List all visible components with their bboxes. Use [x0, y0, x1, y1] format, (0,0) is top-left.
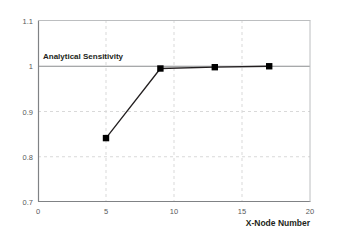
y-tick-label: 0.8 — [23, 153, 33, 162]
y-tick-label: 0.7 — [23, 198, 33, 207]
analytical-sensitivity-line-chart: 1.1 1 0.9 0.8 0.7 0 5 10 15 20 Analytica… — [0, 0, 341, 241]
chart-background — [0, 0, 341, 241]
chart-container: 1.1 1 0.9 0.8 0.7 0 5 10 15 20 Analytica… — [0, 0, 341, 241]
x-tick-label: 0 — [36, 207, 40, 216]
data-point-marker — [103, 135, 109, 141]
x-tick-label: 10 — [170, 207, 178, 216]
x-tick-label: 5 — [104, 207, 108, 216]
x-tick-label: 20 — [306, 207, 314, 216]
x-axis-title: X-Node Number — [246, 218, 311, 228]
y-tick-label: 0.9 — [23, 108, 33, 117]
data-point-marker — [212, 64, 218, 70]
data-point-marker — [266, 63, 272, 69]
annotation-analytical-sensitivity: Analytical Sensitivity — [43, 52, 124, 61]
y-tick-label: 1.1 — [23, 17, 33, 26]
x-tick-label: 15 — [238, 207, 246, 216]
data-point-marker — [157, 65, 163, 71]
y-tick-label: 1 — [29, 62, 33, 71]
